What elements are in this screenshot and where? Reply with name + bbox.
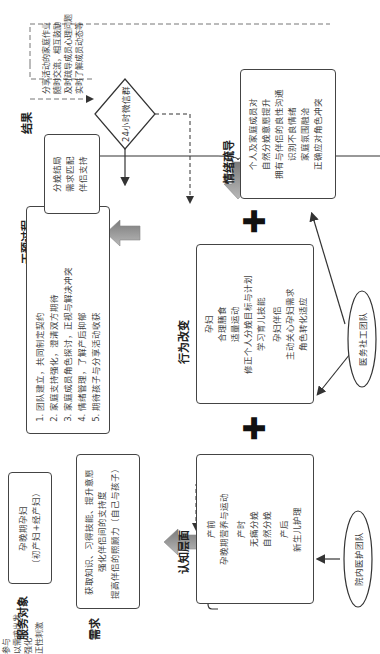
behavior-item: 孕妇 <box>203 251 216 397</box>
process-step: 家庭支持强化，澄清双方期待 <box>47 215 61 411</box>
process-step: 家庭成员角色探讨，正视与解决冲突 <box>61 215 75 411</box>
behavior-item: 合理膳食 <box>216 251 229 397</box>
behavior-item: 学习育儿技能 <box>255 251 268 397</box>
service-target-box: 孕晚期孕妇 （初产妇+经产妇） <box>8 472 52 584</box>
process-step: 期待孩子与分享活动收获 <box>89 215 103 411</box>
cognitive-item: 产前 <box>205 463 218 595</box>
process-step: 团队建立，共同制定契约 <box>33 215 47 411</box>
cognitive-item: 孕晚期营养与运动 <box>218 463 231 595</box>
note-line: 分享活动的家庭作业 <box>40 14 51 94</box>
column-label-result: 结果 <box>18 112 34 134</box>
hospital-nursing-team: 院内医护团队 <box>352 511 364 607</box>
needs-box: 获取知识、习得技能、提升意愿 强化伴侣间的支持度 提高伴侣的照顾力（自己与孩子） <box>76 454 140 609</box>
emotion-item: 识别不良情绪 <box>286 76 299 192</box>
cognitive-box: 产前 孕晚期营养与运动 产时 无痛分娩 自然分娩 产后 新生儿护理 <box>196 454 314 604</box>
emotion-item: 正确应对角色冲突 <box>312 76 325 192</box>
note-line: 随时交流，相互鼓励 <box>51 14 62 94</box>
behavior-item: 孕妇伴侣 <box>271 251 284 397</box>
emotion-item: 自然分娩意愿提升 <box>260 76 273 192</box>
result-line: 伴侣支持 <box>77 135 90 213</box>
needs-line: 获取知识、习得技能、提升意愿 <box>83 461 96 602</box>
plus-icon: ✚ <box>240 209 270 234</box>
process-step: 情绪管理，了解产后抑郁 <box>75 215 89 411</box>
cognitive-item: 产后 <box>278 463 291 595</box>
behavior-item: 主动关心孕妇需求 <box>284 251 297 397</box>
behavior-box: 孕妇 合理膳食 适量运动 修正个人分娩目标与计划 学习育儿技能 孕妇伴侣 主动关… <box>196 244 314 404</box>
emotion-item: 个人及家庭成员对 <box>247 76 260 192</box>
note-line: 及时疏导成员心理问题 <box>62 14 73 94</box>
emotion-title: 情绪疏导 <box>220 140 236 184</box>
result-line: 分娩结局 <box>51 135 64 213</box>
behavior-item: 角色转化适应 <box>297 251 310 397</box>
behavior-item: 适量运动 <box>229 251 242 397</box>
plus-icon: ✚ <box>240 416 270 441</box>
needs-line: 强化伴侣间的支持度 <box>96 461 109 602</box>
column-label-needs: 需求 <box>86 618 102 640</box>
behavior-item: 修正个人分娩目标与计划 <box>242 251 255 397</box>
medical-social-work-team: 医务社工团队 <box>356 291 368 387</box>
process-steps: 团队建立，共同制定契约 家庭支持强化，澄清双方期待 家庭成员角色探讨，正视与解决… <box>33 215 103 425</box>
wechat-group-notes: 分享活动的家庭作业 随时交流，相互鼓励 及时疏导成员心理问题 实时了解成员动态等 <box>40 14 84 94</box>
column-label-service-target: 服务对象 <box>14 596 30 640</box>
service-target-line1: 孕晚期孕妇 <box>17 473 30 583</box>
emotion-item: 拥有与伴侣的良性沟通 <box>273 76 286 192</box>
note-line: 实时了解成员动态等 <box>73 14 84 94</box>
behavior-title: 行为改变 <box>175 320 191 364</box>
process-box: 团队建立，共同制定契约 家庭支持强化，澄清双方期待 家庭成员角色探讨，正视与解决… <box>26 206 110 434</box>
result-line: 需求匹配 <box>64 135 77 213</box>
cognitive-item: 新生儿护理 <box>291 463 304 595</box>
cognitive-item: 自然分娩 <box>261 463 274 595</box>
cognitive-title: 认知层面 <box>175 530 191 574</box>
wechat-group-label: 24小时微信群 <box>119 80 131 148</box>
cognitive-item: 产时 <box>235 463 248 595</box>
service-target-line2: （初产妇+经产妇） <box>30 473 43 583</box>
emotion-item: 家庭氛围融洽 <box>299 76 312 192</box>
result-box: 分娩结局 需求匹配 伴侣支持 <box>44 134 100 214</box>
intervention-flowchart: 服务对象 需求 干预过程 结果 孕晚期孕妇 （初产妇+经产妇） 获取知识、习得技… <box>0 0 380 654</box>
needs-line: 提高伴侣的照顾力（自己与孩子） <box>109 461 122 602</box>
emotion-box: 个人及家庭成员对 自然分娩意愿提升 拥有与伴侣的良性沟通 识别不良情绪 家庭氛围… <box>240 69 336 199</box>
cognitive-item: 无痛分娩 <box>248 463 261 595</box>
